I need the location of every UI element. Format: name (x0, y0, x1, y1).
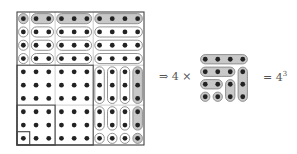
dot (135, 136, 140, 141)
dot (34, 136, 39, 141)
dot (84, 123, 89, 128)
arrow-label-text: ⇒ 4 × (159, 70, 191, 83)
dot (34, 69, 39, 74)
dot (135, 30, 140, 35)
dot (135, 43, 140, 48)
dot (97, 56, 102, 61)
dot (59, 83, 64, 88)
dot (240, 69, 245, 74)
dot (123, 136, 128, 141)
dot (84, 96, 89, 101)
dot (46, 30, 51, 35)
dot (21, 96, 26, 101)
dot (34, 96, 39, 101)
dot (46, 96, 51, 101)
dot (123, 43, 128, 48)
dot (21, 136, 26, 141)
dot (203, 69, 208, 74)
dot (72, 56, 77, 61)
dot (46, 109, 51, 114)
dot (135, 16, 140, 21)
dot (123, 56, 128, 61)
dot (110, 69, 115, 74)
dot (59, 123, 64, 128)
dot (34, 43, 39, 48)
dot (97, 83, 102, 88)
dot (240, 94, 245, 99)
dot (46, 123, 51, 128)
dot (84, 109, 89, 114)
dot (97, 123, 102, 128)
cubes-sum-diagram (0, 0, 297, 154)
dot (228, 69, 233, 74)
dot (34, 56, 39, 61)
dot (72, 96, 77, 101)
dot (46, 43, 51, 48)
dot (123, 109, 128, 114)
dot (84, 30, 89, 35)
dot (72, 83, 77, 88)
dot (46, 83, 51, 88)
dot (59, 56, 64, 61)
dot (123, 69, 128, 74)
dot (21, 30, 26, 35)
big-grid-10x10 (17, 12, 144, 145)
dot (203, 57, 208, 62)
dot (110, 43, 115, 48)
dot (84, 16, 89, 21)
dot (97, 109, 102, 114)
dot (72, 123, 77, 128)
dot (228, 94, 233, 99)
dot (34, 30, 39, 35)
dot (215, 69, 220, 74)
dot (97, 96, 102, 101)
dot (110, 123, 115, 128)
dot (59, 43, 64, 48)
equals-four-cubed-label: = 43 (263, 70, 287, 84)
dot (110, 96, 115, 101)
dot (46, 69, 51, 74)
dot (110, 83, 115, 88)
dot (110, 109, 115, 114)
dot (21, 43, 26, 48)
dot (84, 69, 89, 74)
dot (97, 30, 102, 35)
dot (34, 83, 39, 88)
dot (46, 136, 51, 141)
dot (21, 69, 26, 74)
dot (72, 69, 77, 74)
dot (240, 82, 245, 87)
dot (72, 109, 77, 114)
dot (21, 56, 26, 61)
dot (135, 83, 140, 88)
dot (72, 30, 77, 35)
dot (203, 82, 208, 87)
dot (97, 69, 102, 74)
dot (72, 16, 77, 21)
dot (59, 96, 64, 101)
dot (110, 136, 115, 141)
dot (228, 82, 233, 87)
dot (123, 83, 128, 88)
dot (84, 43, 89, 48)
dot (84, 136, 89, 141)
dot (34, 109, 39, 114)
dot (135, 109, 140, 114)
dot (123, 96, 128, 101)
dot (59, 30, 64, 35)
dot (59, 109, 64, 114)
dot (72, 136, 77, 141)
dot (97, 16, 102, 21)
dot (59, 69, 64, 74)
dot (46, 16, 51, 21)
dot (123, 123, 128, 128)
dot (135, 96, 140, 101)
result-exponent: 3 (283, 70, 287, 78)
dot (97, 43, 102, 48)
result-base-text: = 4 (263, 71, 283, 84)
dot (21, 109, 26, 114)
dot (240, 57, 245, 62)
dot (84, 56, 89, 61)
dot (110, 56, 115, 61)
dot (215, 94, 220, 99)
